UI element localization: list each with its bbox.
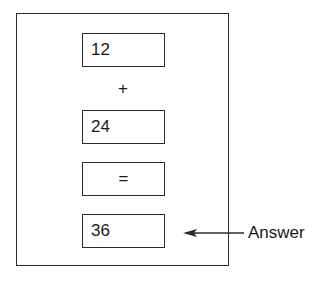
operand-1-box: 12 — [82, 33, 165, 67]
operand-2-box: 24 — [82, 110, 165, 144]
equals-operator: = — [83, 163, 164, 194]
plus-operator: + — [115, 79, 131, 99]
arrow-left-icon — [182, 224, 246, 242]
equals-box: = — [82, 162, 165, 196]
answer-label: Answer — [248, 223, 305, 243]
result-value: 36 — [91, 215, 110, 246]
result-box: 36 — [82, 214, 165, 248]
operand-1-value: 12 — [91, 34, 110, 65]
operand-2-value: 24 — [91, 111, 110, 142]
